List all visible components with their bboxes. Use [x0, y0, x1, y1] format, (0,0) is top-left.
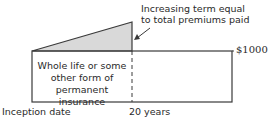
inception-date-label: Inception date	[2, 106, 71, 117]
callout-line-1: Increasing term equal	[141, 3, 241, 14]
box-label-line-1: Whole life or some	[34, 60, 130, 72]
callout-text: Increasing term equal to total premiums …	[141, 3, 241, 25]
box-label: Whole life or some other form of permane…	[34, 60, 130, 108]
increasing-term-triangle	[32, 22, 132, 51]
callout-arrow-line	[137, 28, 150, 38]
amount-label: $1000	[236, 44, 268, 55]
box-label-line-3: permanent insurance	[34, 84, 130, 108]
box-label-line-2: other form of	[34, 72, 130, 84]
twenty-years-label: 20 years	[129, 106, 170, 117]
callout-line-2: to total premiums paid	[141, 14, 241, 25]
